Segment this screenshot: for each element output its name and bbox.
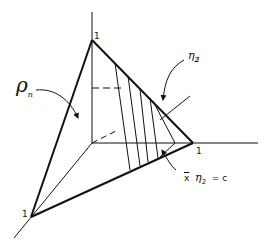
rho-arrow xyxy=(36,90,78,118)
edge-left-right xyxy=(31,143,193,217)
hatch-line xyxy=(128,76,140,166)
eta2-line xyxy=(160,96,190,120)
edge-top-right xyxy=(92,40,193,143)
vertex-left-label: 1 xyxy=(22,210,28,219)
eta-arrow xyxy=(163,60,184,100)
equation-label: x η2 = c xyxy=(184,172,227,186)
hatch-line xyxy=(140,89,148,162)
axis-diagonal-hidden xyxy=(92,130,118,143)
rho-label: ρn xyxy=(16,75,33,99)
simplex-diagram xyxy=(0,0,272,250)
vertex-top-label: 1 xyxy=(94,32,100,41)
edge-top-left xyxy=(31,40,92,217)
eta-label: η2 xyxy=(188,50,199,63)
vertex-right-label: 1 xyxy=(196,147,202,156)
axis-diagonal xyxy=(14,143,92,238)
hatch-line xyxy=(115,63,130,170)
